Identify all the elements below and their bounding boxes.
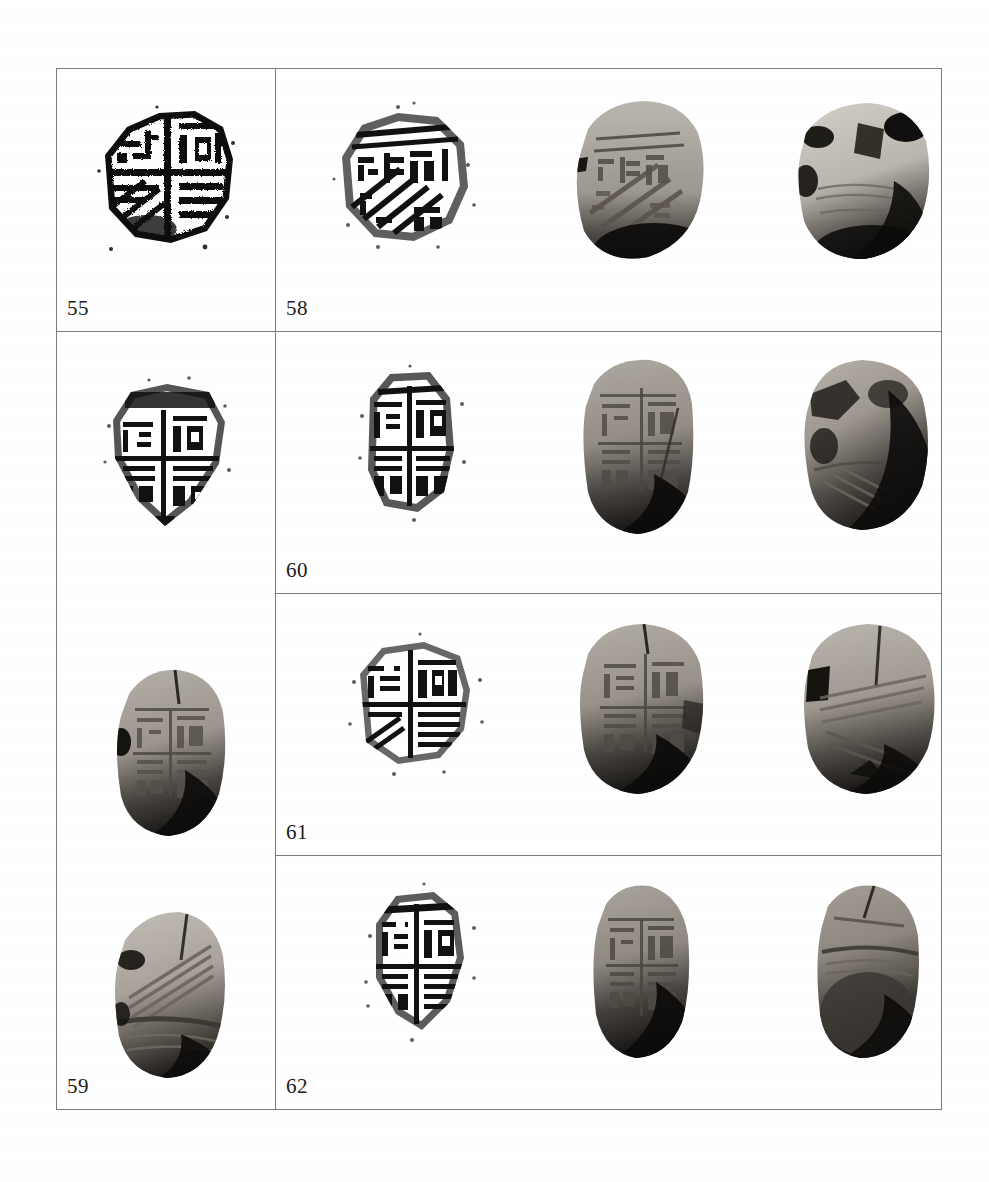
figure-photo-61-reverse (784, 614, 941, 804)
cell-label-58: 58 (286, 298, 308, 319)
figure-rubbing-61 (334, 626, 494, 782)
figure-rubbing-55 (87, 97, 247, 257)
figure-photo-58-reverse (784, 93, 941, 273)
figure-photo-61-obverse (558, 614, 726, 804)
figure-photo-59-obverse (95, 660, 245, 850)
figure-photo-62-reverse (794, 874, 941, 1070)
figure-rubbing-60 (344, 358, 478, 528)
figure-rubbing-58 (318, 95, 488, 265)
figure-photo-60-obverse (558, 350, 718, 546)
cell-label-61: 61 (286, 822, 308, 843)
plate-cell-58: 58 (276, 69, 941, 332)
figure-rubbing-59 (89, 366, 245, 536)
plate-cell-61: 61 (276, 594, 941, 856)
figure-rubbing-62 (346, 878, 494, 1048)
cell-label-60: 60 (286, 560, 308, 581)
plate-cell-59: 59 (57, 332, 276, 1109)
figure-plate: 55 (56, 68, 942, 1110)
cell-label-59: 59 (67, 1076, 89, 1097)
plate-cell-60: 60 (276, 332, 941, 594)
figure-photo-60-reverse (784, 350, 941, 546)
cell-label-55: 55 (67, 298, 89, 319)
figure-photo-62-obverse (568, 874, 718, 1070)
plate-cell-62: 62 (276, 856, 941, 1109)
figure-photo-58-obverse (558, 93, 722, 273)
cell-label-62: 62 (286, 1076, 308, 1097)
plate-cell-55: 55 (57, 69, 276, 332)
figure-photo-59-reverse (95, 902, 245, 1092)
